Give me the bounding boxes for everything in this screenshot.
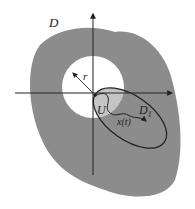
label-trajectory-xt: x(t) <box>116 116 132 128</box>
diagram-canvas: D r U D1 x(t) <box>0 0 195 209</box>
label-subdomain-d1-main: D <box>138 103 148 117</box>
origin-point <box>93 93 97 97</box>
label-neighborhood-u: U <box>97 103 107 117</box>
label-domain-d: D <box>48 15 59 30</box>
label-subdomain-d1-subscript: 1 <box>148 110 152 119</box>
label-radius-r: r <box>83 70 88 82</box>
